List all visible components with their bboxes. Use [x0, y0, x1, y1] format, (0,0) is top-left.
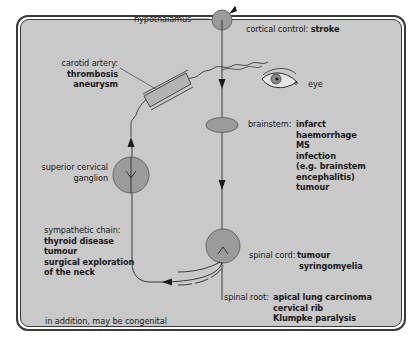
hypothalamus-label: hypothalamus [134, 14, 191, 25]
brainstem-cause: haemorrhage [296, 130, 366, 141]
descending-arrow-icon-upper [219, 79, 226, 89]
ganglion-label-line1: superior cervical [30, 162, 108, 173]
carotid-leader-line [120, 68, 156, 89]
spinal-root-causes: apical lung carcinoma cervical rib Klump… [273, 292, 372, 324]
spinal-root-curve-upper [178, 262, 220, 272]
brainstem-node [206, 118, 238, 133]
spinal-cord-cause: syringomyelia [297, 261, 363, 272]
ascending-arrow-icon [128, 137, 135, 147]
eye-label: eye [308, 79, 323, 90]
sympathetic-chain-label: sympathetic chain: thyroid disease tumou… [44, 225, 134, 278]
postganglionic-fibre-line-2 [222, 66, 262, 70]
ganglion-label-line2: ganglion [30, 173, 108, 184]
brainstem-causes: infarct haemorrhage MS infection (e.g. b… [296, 119, 366, 193]
cortical-control-title: cortical control: [246, 24, 311, 34]
sympathetic-chain-cause: surgical exploration [44, 257, 134, 268]
superior-cervical-ganglion-label: superior cervical ganglion [30, 162, 108, 183]
carotid-artery-label: carotid artery: thrombosis aneurysm [60, 58, 118, 90]
cortical-control-label: cortical control: stroke [246, 24, 339, 35]
brainstem-cause: tumour [296, 182, 366, 193]
brainstem-cause: MS [296, 140, 366, 151]
spinal-root-cause: apical lung carcinoma [273, 292, 372, 303]
spinal-root-cause: cervical rib [273, 303, 372, 314]
brainstem-cause: infarct [296, 119, 366, 130]
sympathetic-chain-cause: of the neck [44, 267, 134, 278]
spinal-root-curve-lower [178, 266, 224, 285]
brainstem-cause: (e.g. brainstem [296, 161, 366, 172]
brainstem-cause: infection [296, 151, 366, 162]
spinal-root-cause: Klumpke paralysis [273, 313, 372, 324]
carotid-cause-thrombosis: thrombosis [60, 69, 118, 80]
carotid-artery-segment [143, 70, 193, 110]
descending-arrow-icon-lower [219, 180, 226, 190]
sympathetic-chain-cause: tumour [44, 246, 134, 257]
carotid-cause-aneurysm: aneurysm [60, 79, 118, 90]
sympathetic-chain-cause: thyroid disease [44, 236, 134, 247]
sympathetic-chain-title: sympathetic chain: [44, 225, 134, 236]
brainstem-label: brainstem: [248, 119, 291, 130]
spinal-cord-node [206, 229, 240, 263]
brainstem-cause: encephalitis) [296, 172, 366, 183]
footnote-congenital: in addition, may be congenital [45, 316, 167, 327]
spinal-root-label: spinal root: [224, 292, 269, 303]
sympathetic-chain-arrow-icon [162, 279, 172, 286]
eye-icon [262, 68, 297, 87]
spinal-cord-causes: tumour syringomyelia [297, 250, 363, 271]
cortical-control-cause: stroke [311, 24, 340, 34]
spinal-cord-cause: tumour [297, 250, 363, 261]
spinal-cord-label: spinal cord: [249, 250, 295, 261]
carotid-artery-title: carotid artery: [60, 58, 118, 69]
